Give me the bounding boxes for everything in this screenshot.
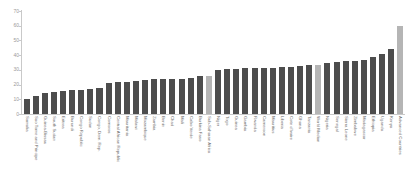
bar xyxy=(115,82,121,114)
x-axis-label-slot: Gambia xyxy=(241,116,250,187)
bar-slot xyxy=(31,11,40,114)
bar xyxy=(78,90,84,114)
x-axis-label-slot: Cameroon xyxy=(259,116,268,187)
x-axis-category-label: Burkina Faso xyxy=(198,116,202,141)
bar-slot xyxy=(168,11,177,114)
bar xyxy=(69,90,75,114)
bar-slot xyxy=(341,11,350,114)
bar-slot xyxy=(286,11,295,114)
bar-slot xyxy=(86,11,95,114)
x-axis-category-label: South Sudan xyxy=(52,116,56,141)
x-axis-label-slot: Burundi xyxy=(68,116,77,187)
bar xyxy=(297,66,303,114)
bar-slot xyxy=(104,11,113,114)
bar-chart: 010203040506070 SomaliaSao Tome and Prin… xyxy=(0,0,407,187)
x-axis-category-label: Tanzania xyxy=(307,116,311,133)
x-axis-label-slot: Mauritius xyxy=(268,116,277,187)
bar xyxy=(142,80,148,114)
bar xyxy=(252,68,258,114)
bar xyxy=(352,61,358,114)
x-axis-category-label: Uganda xyxy=(380,116,384,131)
x-axis-label-slot: Guinea xyxy=(232,116,241,187)
bar-slot xyxy=(177,11,186,114)
bar-slot xyxy=(159,11,168,114)
x-axis-label-slot: Sudan xyxy=(86,116,95,187)
x-axis-category-label: Kenya xyxy=(389,116,393,128)
x-axis-category-labels: SomaliaSao Tome and PrincipeGuinea-Bissa… xyxy=(22,116,405,187)
x-axis-category-label: Malawi xyxy=(134,116,138,129)
x-axis-label-slot: Uganda xyxy=(378,116,387,187)
x-axis-label-slot: Comoros xyxy=(104,116,113,187)
x-axis-category-label: Senegal xyxy=(334,116,338,132)
bar-slot xyxy=(350,11,359,114)
x-axis-label-slot: Cote d'Ivoire xyxy=(286,116,295,187)
bar-slot xyxy=(259,11,268,114)
bar xyxy=(24,99,30,114)
x-axis-category-label: Rwanda xyxy=(252,116,256,132)
bar xyxy=(397,26,403,114)
bar-slot xyxy=(277,11,286,114)
bar-slot xyxy=(186,11,195,114)
bar xyxy=(361,60,367,114)
x-axis-label-slot: Central African Republic xyxy=(113,116,122,187)
x-axis-label-slot: Kenya xyxy=(387,116,396,187)
x-axis-category-label: Cabo Verde xyxy=(189,116,193,139)
x-axis-category-label: Burundi xyxy=(70,116,74,131)
bar-slot xyxy=(195,11,204,114)
bar-slot xyxy=(250,11,259,114)
x-axis-label-slot: Senegal xyxy=(332,116,341,187)
bar xyxy=(324,63,330,115)
bar-slot xyxy=(141,11,150,114)
bar-slot xyxy=(223,11,232,114)
x-axis-category-label: Guinea-Bissau xyxy=(43,116,47,144)
bar xyxy=(151,79,157,114)
bar xyxy=(197,76,203,114)
bar xyxy=(242,68,248,114)
bar xyxy=(270,68,276,114)
x-axis-label-slot: Niger xyxy=(214,116,223,187)
bar xyxy=(233,69,239,114)
bar xyxy=(188,78,194,114)
bar-slot xyxy=(150,11,159,114)
bar xyxy=(96,88,102,114)
x-axis-category-label: Togo xyxy=(225,116,229,125)
bar xyxy=(315,65,321,114)
x-axis-category-label: Niger xyxy=(216,116,220,126)
x-axis-category-label: Congo, Dem. Rep. xyxy=(97,116,101,152)
bar-slot xyxy=(369,11,378,114)
bar xyxy=(288,67,294,114)
bar-slot xyxy=(131,11,140,114)
x-axis-label-slot: Chad xyxy=(168,116,177,187)
x-axis-label-slot: Cabo Verde xyxy=(186,116,195,187)
bar xyxy=(169,79,175,114)
bar-slot xyxy=(359,11,368,114)
x-axis-label-slot: Burkina Faso xyxy=(195,116,204,187)
x-axis-label-slot: Somalia xyxy=(22,116,31,187)
bar-slot xyxy=(58,11,67,114)
bar-slot xyxy=(296,11,305,114)
x-axis-category-label: Nigeria xyxy=(325,116,329,130)
x-axis-category-label: Mozambique xyxy=(143,116,147,141)
x-axis-label-slot: Madagascar xyxy=(359,116,368,187)
x-axis-label-slot: Tanzania xyxy=(305,116,314,187)
bar xyxy=(133,81,139,114)
x-axis-category-label: Liberia xyxy=(280,116,284,129)
x-axis-category-label: Congo Republic xyxy=(79,116,83,147)
x-axis-label-slot: Nigeria xyxy=(323,116,332,187)
bar-slot xyxy=(323,11,332,114)
bar xyxy=(279,67,285,114)
x-axis-category-label: Guinea xyxy=(234,116,238,130)
x-axis-label-slot: World Median xyxy=(314,116,323,187)
x-axis-label-slot: Rwanda xyxy=(250,116,259,187)
bar-slot xyxy=(241,11,250,114)
x-axis-category-label: Sierra Leone xyxy=(344,116,348,141)
bar xyxy=(106,83,112,114)
x-axis-label-slot: Guinea-Bissau xyxy=(40,116,49,187)
bar-series xyxy=(22,11,405,114)
x-axis-label-slot: Sub-Saharan Africa xyxy=(204,116,213,187)
bar xyxy=(51,92,57,114)
x-axis-category-label: Mauritius xyxy=(271,116,275,133)
bar xyxy=(334,62,340,114)
x-axis-category-label: Somalia xyxy=(24,116,28,132)
x-axis-label-slot: Congo, Dem. Rep. xyxy=(95,116,104,187)
